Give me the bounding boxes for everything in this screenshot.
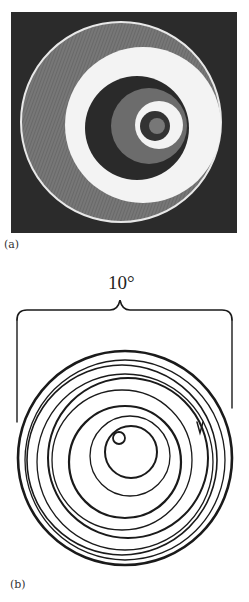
panel-a-photo: [11, 12, 237, 233]
scale-angle-label: 10°: [108, 272, 135, 294]
panel-b-drawing: [0, 300, 249, 570]
panel-a-label: (a): [4, 238, 19, 251]
scale-brace: [17, 300, 232, 320]
spiral-drawing-graphic: [0, 300, 249, 570]
spiral-photo-graphic: [11, 12, 237, 233]
panel-b-label: (b): [10, 578, 26, 591]
